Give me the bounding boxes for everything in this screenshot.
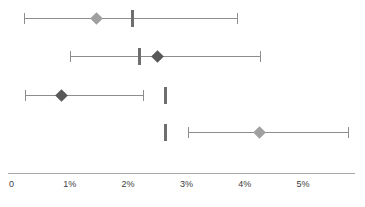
- x-axis-tick-label: 5%: [296, 178, 309, 190]
- confidence-interval-row: [0, 83, 365, 109]
- x-axis-tick-label: 4%: [238, 178, 251, 190]
- estimate-marker-diamond: [151, 50, 164, 63]
- confidence-interval-row: [0, 6, 365, 32]
- whisker-cap-low: [25, 90, 26, 101]
- reference-bar: [164, 124, 167, 141]
- estimate-marker-diamond: [90, 12, 103, 25]
- confidence-interval-row: [0, 44, 365, 70]
- x-axis-tick-labels: 01%2%3%4%5%: [0, 178, 365, 194]
- plot-area: [0, 0, 365, 174]
- whisker-cap-low: [70, 51, 71, 62]
- whisker-cap-high: [237, 13, 238, 24]
- reference-bar: [131, 10, 134, 27]
- whisker-cap-low: [188, 127, 189, 138]
- whisker-line: [188, 132, 348, 133]
- reference-bar: [138, 48, 141, 65]
- x-axis-tick-label: 2%: [122, 178, 135, 190]
- whisker-cap-high: [143, 90, 144, 101]
- x-axis-tick-label: 1%: [63, 178, 76, 190]
- estimate-marker-diamond: [55, 89, 68, 102]
- whisker-cap-high: [348, 127, 349, 138]
- whisker-line: [70, 56, 260, 57]
- reference-bar: [164, 87, 167, 104]
- x-axis-tick-label: 0: [9, 178, 14, 190]
- x-axis-line: [8, 173, 355, 174]
- whisker-line: [25, 95, 143, 96]
- forest-plot-chart: 01%2%3%4%5%: [0, 0, 365, 207]
- whisker-cap-low: [24, 13, 25, 24]
- confidence-interval-row: [0, 120, 365, 146]
- x-axis-tick-label: 3%: [180, 178, 193, 190]
- whisker-cap-high: [260, 51, 261, 62]
- estimate-marker-diamond: [253, 126, 266, 139]
